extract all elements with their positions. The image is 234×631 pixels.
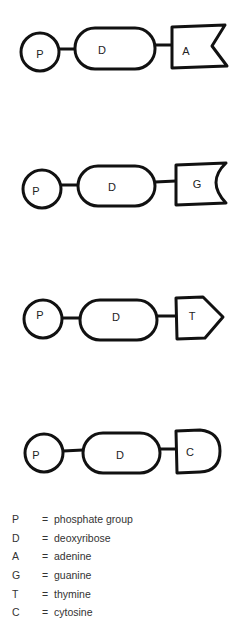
legend-row-adenine: A = adenine: [12, 547, 133, 566]
legend-key: C: [12, 606, 42, 618]
legend-row-thymine: T = thymine: [12, 584, 133, 603]
legend-equals: =: [42, 569, 54, 581]
bond-p-d: [63, 450, 83, 451]
thymine-arrow-shape: [176, 297, 223, 339]
legend-key: D: [12, 532, 42, 544]
legend-key: P: [12, 513, 42, 525]
legend-equals: =: [42, 588, 54, 600]
legend-key: T: [12, 588, 42, 600]
legend-row-deoxyribose: D = deoxyribose: [12, 529, 133, 548]
phosphate-circle: [23, 170, 61, 208]
legend-meaning: cytosine: [54, 606, 93, 618]
legend-equals: =: [42, 532, 54, 544]
legend-row-guanine: G = guanine: [12, 566, 133, 585]
phosphate-label: P: [36, 309, 43, 321]
base-label: T: [189, 310, 196, 322]
phosphate-label: P: [32, 449, 39, 461]
base-label: A: [182, 45, 190, 57]
legend-key: A: [12, 550, 42, 562]
legend-meaning: adenine: [54, 550, 91, 562]
deoxyribose-pill: [75, 28, 155, 69]
legend-meaning: phosphate group: [54, 513, 133, 525]
legend: P = phosphate group D = deoxyribose A = …: [12, 510, 133, 622]
legend-row-cytosine: C = cytosine: [12, 603, 133, 622]
phosphate-label: P: [36, 48, 43, 60]
legend-meaning: thymine: [54, 588, 91, 600]
legend-key: G: [12, 569, 42, 581]
legend-equals: =: [42, 513, 54, 525]
deoxyribose-pill: [78, 166, 155, 206]
nucleotide-adenine: P D A: [21, 25, 227, 71]
bond-d-base: [155, 181, 176, 182]
deoxyribose-label: D: [112, 311, 120, 323]
nucleotide-cytosine: P D C: [25, 430, 220, 473]
phosphate-label: P: [32, 185, 39, 197]
cytosine-rounded-shape: [176, 430, 220, 473]
legend-meaning: guanine: [54, 569, 91, 581]
legend-meaning: deoxyribose: [54, 532, 111, 544]
base-label: C: [186, 446, 194, 458]
legend-equals: =: [42, 550, 54, 562]
nucleotide-thymine: P D T: [24, 297, 223, 340]
legend-row-phosphate: P = phosphate group: [12, 510, 133, 529]
deoxyribose-label: D: [108, 181, 116, 193]
nucleotide-guanine: P D G: [23, 163, 226, 208]
phosphate-circle: [25, 434, 63, 472]
base-label: G: [193, 178, 202, 190]
nucleotide-diagram: P D A P D G P D T P D C: [0, 0, 234, 500]
deoxyribose-label: D: [116, 449, 124, 461]
adenine-flag-shape: [172, 25, 227, 68]
deoxyribose-label: D: [98, 44, 106, 56]
legend-equals: =: [42, 606, 54, 618]
